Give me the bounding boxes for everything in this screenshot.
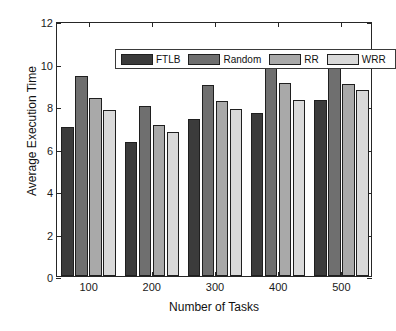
x-tick-mark-top: [152, 22, 153, 27]
bar-ftlb-500: [314, 100, 327, 276]
x-tick-mark-top: [215, 22, 216, 27]
bar-rr-200: [153, 125, 166, 276]
bar-wrr-500: [356, 90, 369, 276]
x-axis-title: Number of Tasks: [56, 300, 372, 314]
x-tick-label: 200: [143, 281, 161, 293]
bar-ftlb-300: [188, 119, 201, 276]
plot-area: 024681012 100200300400500 FTLBRandomRRWR…: [56, 22, 372, 277]
bar-ftlb-400: [251, 113, 264, 276]
y-tick-mark-right: [367, 278, 372, 279]
x-tick-label: 400: [269, 281, 287, 293]
y-tick-label: 0: [47, 272, 53, 284]
y-tick-mark: [56, 236, 61, 237]
bar-random-500: [328, 66, 341, 276]
y-tick-label: 12: [41, 17, 53, 29]
y-tick-label: 2: [47, 230, 53, 242]
y-tick-label: 6: [47, 145, 53, 157]
bar-random-400: [265, 60, 278, 276]
legend-entry-random: Random: [188, 54, 265, 65]
bar-rr-100: [89, 98, 102, 277]
x-tick-label: 300: [206, 281, 224, 293]
legend-entry-ftlb: FTLB: [121, 54, 184, 65]
y-tick-mark: [56, 66, 61, 67]
bar-wrr-200: [167, 132, 180, 277]
bar-wrr-300: [230, 109, 243, 276]
x-tick-mark-top: [89, 22, 90, 27]
y-tick-label: 4: [47, 187, 53, 199]
y-tick-mark: [56, 23, 61, 24]
legend-label-random: Random: [223, 54, 265, 65]
legend-swatch-rr: [269, 54, 301, 65]
legend-swatch-ftlb: [121, 54, 153, 65]
bar-wrr-100: [103, 110, 116, 276]
legend-label-ftlb: FTLB: [156, 54, 184, 65]
bar-ftlb-200: [125, 142, 138, 276]
legend-entry-rr: RR: [269, 54, 322, 65]
x-tick-mark-top: [278, 22, 279, 27]
y-tick-mark: [56, 108, 61, 109]
y-tick-mark-right: [367, 23, 372, 24]
y-tick-mark: [56, 193, 61, 194]
legend-swatch-random: [188, 54, 220, 65]
bar-random-100: [75, 76, 88, 276]
bar-rr-300: [216, 101, 229, 276]
bar-wrr-400: [293, 100, 306, 276]
legend-swatch-wrr: [327, 54, 359, 65]
y-axis-title: Average Execution Time: [25, 11, 39, 251]
legend-label-rr: RR: [304, 54, 322, 65]
bar-rr-400: [279, 83, 292, 276]
y-tick-mark: [56, 278, 61, 279]
bar-random-300: [202, 85, 215, 276]
y-tick-label: 8: [47, 102, 53, 114]
y-tick-mark: [56, 151, 61, 152]
x-tick-mark-top: [341, 22, 342, 27]
bar-ftlb-100: [61, 127, 74, 276]
y-tick-label: 10: [41, 60, 53, 72]
x-tick-label: 500: [332, 281, 350, 293]
bar-rr-500: [342, 84, 355, 276]
chart-legend: FTLBRandomRRWRR: [115, 49, 396, 69]
bar-random-200: [139, 106, 152, 276]
legend-entry-wrr: WRR: [327, 54, 390, 65]
x-tick-label: 100: [79, 281, 97, 293]
legend-label-wrr: WRR: [362, 54, 390, 65]
